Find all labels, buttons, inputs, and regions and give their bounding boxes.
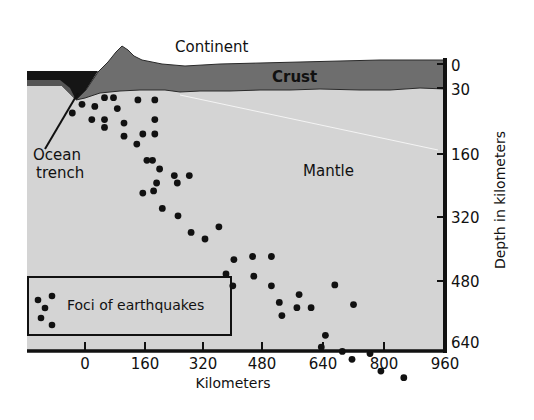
earthquake-focus-dot <box>250 273 257 280</box>
y-axis-label: Depth in kilometers <box>492 131 508 269</box>
earthquake-focus-dot <box>268 282 275 289</box>
earthquake-focus-dot <box>322 332 329 339</box>
earthquake-focus-dot <box>186 172 193 179</box>
y-tick-label: 0 <box>451 59 461 74</box>
x-tick-label: 640 <box>309 357 338 372</box>
y-tick-label: 30 <box>451 83 470 98</box>
ocean-trench-label-line2: trench <box>36 166 84 181</box>
earthquake-focus-dot <box>121 120 128 127</box>
earthquake-focus-dot <box>139 131 146 138</box>
earthquake-focus-dot <box>331 282 338 289</box>
earthquake-focus-dot <box>216 223 223 230</box>
earthquake-focus-dot <box>151 131 158 138</box>
ocean-trench-label-line1: Ocean <box>33 148 81 163</box>
earthquake-focus-dot <box>144 157 151 164</box>
earthquake-focus-dot <box>133 141 140 148</box>
earthquake-focus-dot <box>151 116 158 123</box>
earthquake-focus-dot <box>171 172 178 179</box>
earthquake-focus-dot <box>296 291 303 298</box>
y-tick-label: 320 <box>451 211 480 226</box>
earthquake-focus-dot <box>350 301 357 308</box>
earthquake-focus-dot <box>69 110 76 117</box>
earthquake-focus-dot <box>91 103 98 110</box>
earthquake-focus-dot <box>153 180 160 187</box>
x-axis-label: Kilometers <box>196 376 271 390</box>
earthquake-focus-dot <box>202 236 209 243</box>
earthquake-focus-dot <box>175 212 182 219</box>
earthquake-focus-dot <box>231 256 238 263</box>
legend-label: Foci of earthquakes <box>67 298 204 312</box>
y-tick-label: 160 <box>451 148 480 163</box>
earthquake-focus-dot <box>276 299 283 306</box>
x-tick-label: 800 <box>370 357 399 372</box>
earthquake-focus-dot <box>268 253 275 260</box>
earthquake-focus-dot <box>156 166 163 173</box>
earthquake-focus-dot <box>101 116 108 123</box>
earthquake-focus-dot <box>188 229 195 236</box>
earthquake-focus-dot <box>101 124 108 131</box>
earthquake-focus-dot <box>349 356 356 363</box>
x-tick-label: 480 <box>248 357 277 372</box>
earthquake-focus-dot <box>400 374 407 381</box>
earthquake-focus-dot <box>294 304 301 311</box>
earthquake-focus-dot <box>249 253 256 260</box>
x-tick-label: 160 <box>131 357 160 372</box>
x-tick-label: 0 <box>80 357 90 372</box>
earthquake-focus-dot <box>79 101 86 108</box>
earthquake-focus-dot <box>139 190 146 197</box>
earthquake-focus-dot <box>308 304 315 311</box>
earthquake-focus-dot <box>121 133 128 140</box>
earthquake-focus-dot <box>150 188 157 195</box>
earthquake-focus-dot <box>279 312 286 319</box>
mantle-label: Mantle <box>303 164 354 179</box>
earthquake-focus-dot <box>110 94 117 101</box>
earthquake-focus-dot <box>101 94 108 101</box>
x-tick-label: 320 <box>189 357 218 372</box>
y-tick-label: 480 <box>451 275 480 290</box>
x-tick-label: 960 <box>431 357 460 372</box>
earthquake-focus-dot <box>88 116 95 123</box>
y-tick-label: 640 <box>451 336 480 351</box>
continent-label: Continent <box>175 40 248 55</box>
earthquake-focus-dot <box>135 97 142 104</box>
earthquake-focus-dot <box>151 97 158 104</box>
earthquake-focus-dot <box>174 180 181 187</box>
earthquake-focus-dot <box>159 205 166 212</box>
earthquake-focus-dot <box>114 105 121 112</box>
crust-label: Crust <box>272 70 317 85</box>
